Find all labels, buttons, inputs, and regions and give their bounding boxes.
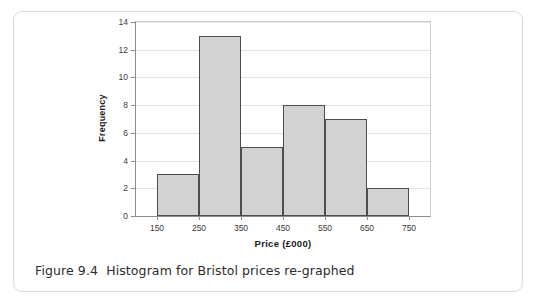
gridline xyxy=(136,22,430,23)
gridline xyxy=(136,50,430,51)
y-tick-mark xyxy=(131,216,135,217)
y-tick-label: 6 xyxy=(123,129,128,138)
y-tick-mark xyxy=(131,161,135,162)
histogram-bar xyxy=(325,119,367,216)
x-tick-mark xyxy=(283,216,284,220)
y-tick-mark xyxy=(131,50,135,51)
x-tick-label: 150 xyxy=(150,224,164,233)
y-tick-mark xyxy=(131,105,135,106)
histogram-bar xyxy=(367,188,409,216)
y-tick-mark xyxy=(131,133,135,134)
x-tick-label: 450 xyxy=(276,224,290,233)
y-tick-label: 0 xyxy=(123,212,128,221)
histogram-bar xyxy=(241,147,283,216)
gridline xyxy=(136,77,430,78)
y-tick-mark xyxy=(131,77,135,78)
x-tick-mark xyxy=(241,216,242,220)
histogram-chart: Frequency 02468101214 150250350450550650… xyxy=(14,12,524,252)
y-tick-mark xyxy=(131,22,135,23)
histogram-bar xyxy=(157,174,199,216)
y-tick-label: 10 xyxy=(119,73,128,82)
y-axis-title: Frequency xyxy=(97,94,107,141)
plot-area: 02468101214 150250350450550650750 xyxy=(135,21,431,217)
x-tick-label: 550 xyxy=(318,224,332,233)
y-tick-label: 2 xyxy=(123,184,128,193)
y-tick-label: 12 xyxy=(119,45,128,54)
x-axis-title: Price (£000) xyxy=(135,238,431,249)
x-tick-mark xyxy=(367,216,368,220)
y-tick-label: 4 xyxy=(123,156,128,165)
x-tick-mark xyxy=(409,216,410,220)
figure-caption: Figure 9.4 Histogram for Bristol prices … xyxy=(35,263,355,278)
x-tick-mark xyxy=(157,216,158,220)
x-tick-label: 650 xyxy=(360,224,374,233)
x-tick-label: 250 xyxy=(192,224,206,233)
histogram-bar xyxy=(283,105,325,216)
y-tick-label: 14 xyxy=(119,18,128,27)
y-tick-mark xyxy=(131,188,135,189)
x-tick-label: 350 xyxy=(234,224,248,233)
x-tick-mark xyxy=(325,216,326,220)
x-tick-label: 750 xyxy=(402,224,416,233)
figure-card: Frequency 02468101214 150250350450550650… xyxy=(13,11,523,292)
histogram-bar xyxy=(199,36,241,216)
x-tick-mark xyxy=(199,216,200,220)
y-tick-label: 8 xyxy=(123,101,128,110)
